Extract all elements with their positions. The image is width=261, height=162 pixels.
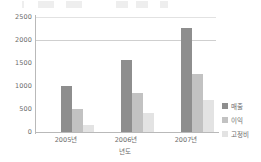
bar-groups (36, 17, 216, 132)
bar-sales-2007 (181, 28, 192, 132)
y-tick-label-1500: 1500 (15, 59, 32, 67)
x-axis-line (35, 132, 219, 133)
bar-profit-2007 (192, 74, 203, 132)
legend-label-sales: 매출 (231, 101, 243, 111)
bar-group-2005 (36, 17, 96, 132)
bar-chart: 2500 2000 1500 1000 500 0 2005년 (0, 0, 261, 162)
x-axis-title: 년도 (119, 146, 131, 156)
bar-profit-2006 (132, 93, 143, 132)
legend-label-profit: 이익 (231, 115, 243, 125)
y-tick-label-1000: 1000 (15, 82, 32, 90)
legend-label-fixed-cost: 고정비 (231, 129, 249, 139)
x-tick-label-2005: 2005년 (55, 134, 78, 144)
legend-item-profit: 이익 (222, 115, 249, 125)
x-tick-label-2007: 2007년 (175, 134, 198, 144)
y-tick-label-2000: 2000 (15, 36, 32, 44)
plot-area: 2500 2000 1500 1000 500 0 (36, 17, 216, 132)
legend-item-sales: 매출 (222, 101, 249, 111)
bar-sales-2005 (61, 86, 72, 132)
chart-legend: 매출 이익 고정비 (222, 101, 249, 139)
bar-group-2006 (96, 17, 156, 132)
legend-swatch-icon-sales (222, 103, 228, 109)
legend-swatch-icon-profit (222, 117, 228, 123)
x-tick-label-2006: 2006년 (115, 134, 138, 144)
legend-item-fixed-cost: 고정비 (222, 129, 249, 139)
legend-swatch-icon-fixed-cost (222, 131, 228, 137)
bar-fixed-cost-2006 (143, 113, 154, 132)
y-tick-label-0: 0 (28, 128, 32, 136)
bar-fixed-cost-2005 (83, 125, 94, 132)
scan-artifact-strip (8, 1, 208, 8)
bar-profit-2005 (72, 109, 83, 132)
bar-fixed-cost-2007 (203, 100, 214, 132)
bar-group-2007 (156, 17, 216, 132)
bar-sales-2006 (121, 60, 132, 132)
y-tick-label-2500: 2500 (15, 13, 32, 21)
y-tick-label-500: 500 (19, 105, 32, 113)
